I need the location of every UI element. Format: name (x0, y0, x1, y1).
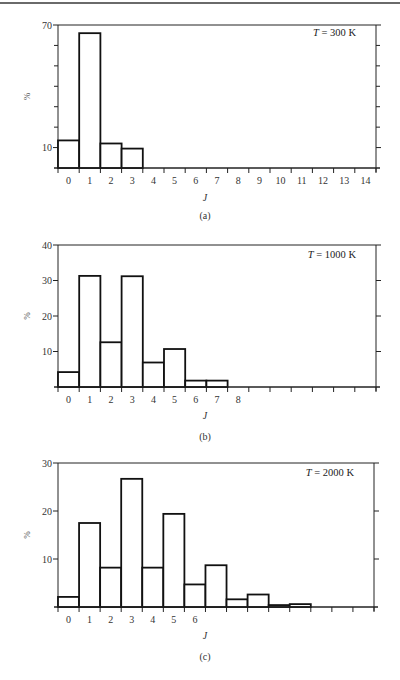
panel-b: 40302010012345678%JT = 1000 K(b) (22, 240, 381, 444)
x-tick-label: 2 (109, 175, 114, 186)
x-axis-label: J (203, 410, 208, 421)
x-tick-label: 2 (108, 614, 113, 625)
y-tick-label: 30 (42, 458, 52, 469)
bar-J4 (142, 568, 163, 607)
x-tick-label: 14 (360, 175, 370, 186)
x-tick-label: 1 (87, 394, 92, 405)
bar-J5 (164, 349, 185, 387)
x-tick-label: 8 (236, 175, 241, 186)
x-tick-label: 3 (129, 614, 134, 625)
x-tick-label: 0 (66, 175, 71, 186)
panel-label: (b) (199, 431, 211, 443)
bar-J3 (121, 479, 142, 607)
x-tick-label: 6 (192, 614, 197, 625)
bar-J9 (248, 595, 269, 607)
bar-J1 (79, 523, 100, 607)
bar-J2 (100, 143, 121, 168)
x-tick-label: 0 (66, 614, 71, 625)
x-tick-label: 1 (87, 175, 92, 186)
temperature-annotation: T = 300 K (313, 27, 356, 38)
bar-J4 (143, 363, 164, 387)
panel-label: (a) (199, 210, 210, 222)
panel-a: 701001234567891011121314%JT = 300 K(a) (22, 20, 381, 223)
x-axis-label: J (203, 630, 208, 641)
x-tick-label: 1 (87, 614, 92, 625)
panel-c: 3020100123456%JT = 2000 K(c) (22, 458, 379, 664)
y-tick-label: 70 (42, 20, 52, 31)
x-tick-label: 5 (172, 394, 177, 405)
bar-J1 (79, 276, 100, 387)
x-tick-label: 3 (130, 175, 135, 186)
temperature-annotation: T = 1000 K (308, 249, 357, 260)
bar-J2 (100, 568, 121, 607)
y-tick-label: 20 (42, 506, 52, 517)
y-tick-label: 20 (42, 311, 52, 322)
y-tick-label: 40 (42, 240, 52, 251)
bar-J2 (100, 342, 121, 387)
y-tick-label: 10 (42, 554, 52, 565)
temperature-annotation: T = 2000 K (306, 467, 355, 478)
bar-J3 (122, 276, 143, 387)
y-axis-label: % (22, 531, 32, 539)
y-axis-label: % (22, 312, 32, 320)
x-tick-label: 2 (109, 394, 114, 405)
x-axis-label: J (203, 192, 208, 203)
y-axis-label: % (22, 93, 32, 101)
x-tick-label: 9 (257, 175, 262, 186)
x-tick-label: 5 (171, 614, 176, 625)
x-tick-label: 10 (276, 175, 286, 186)
y-tick-label: 10 (42, 142, 52, 153)
x-tick-label: 6 (193, 175, 198, 186)
x-tick-label: 4 (150, 614, 155, 625)
bar-J0 (58, 372, 79, 387)
x-tick-label: 11 (297, 175, 307, 186)
temperature-value: = 1000 K (314, 249, 357, 260)
x-tick-label: 3 (130, 394, 135, 405)
x-tick-label: 8 (236, 394, 241, 405)
bar-J7 (205, 565, 226, 607)
bar-J7 (206, 381, 227, 387)
x-tick-label: 7 (215, 175, 220, 186)
bar-J0 (58, 597, 79, 607)
bar-J5 (163, 514, 184, 607)
figure: 701001234567891011121314%JT = 300 K(a) 4… (0, 0, 400, 680)
x-tick-label: 4 (151, 394, 156, 405)
bar-J1 (79, 33, 100, 168)
bar-J6 (185, 381, 206, 387)
temperature-value: = 300 K (319, 27, 357, 38)
y-tick-label: 30 (42, 275, 52, 286)
x-tick-label: 5 (172, 175, 177, 186)
bar-J3 (122, 149, 143, 168)
x-tick-label: 13 (339, 175, 349, 186)
x-tick-label: 12 (318, 175, 328, 186)
x-tick-label: 4 (151, 175, 156, 186)
bar-J6 (184, 584, 205, 607)
panel-label: (c) (199, 651, 210, 663)
bar-J8 (227, 599, 248, 607)
x-tick-label: 7 (215, 394, 220, 405)
bar-J0 (58, 140, 79, 168)
x-tick-label: 0 (66, 394, 71, 405)
y-tick-label: 10 (42, 346, 52, 357)
x-tick-label: 6 (193, 394, 198, 405)
temperature-value: = 2000 K (312, 467, 355, 478)
